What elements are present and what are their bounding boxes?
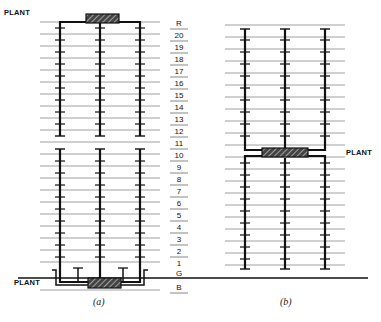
floor-label: 9 xyxy=(169,163,189,172)
floor-label: 17 xyxy=(169,67,189,76)
floor-label: B xyxy=(169,283,189,292)
floor-label: 14 xyxy=(169,103,189,112)
plant-a-top xyxy=(86,14,119,23)
floor-label: 10 xyxy=(169,151,189,160)
floor-label: 1 xyxy=(169,259,189,268)
floor-label: 5 xyxy=(169,211,189,220)
riser-diagram xyxy=(0,0,381,322)
floor-label: R xyxy=(169,19,189,28)
floor-label: 7 xyxy=(169,187,189,196)
floor-label: G xyxy=(169,269,189,278)
plant-b-middle xyxy=(262,148,308,157)
riser-system-a-lower xyxy=(52,149,148,285)
floor-label: 13 xyxy=(169,115,189,124)
floor-label: 20 xyxy=(169,31,189,40)
floor-label: 11 xyxy=(169,139,189,148)
caption-b: (b) xyxy=(280,296,292,307)
floor-label: 3 xyxy=(169,235,189,244)
floor-label: 6 xyxy=(169,199,189,208)
caption-a: (a) xyxy=(93,296,105,307)
floor-label: 19 xyxy=(169,43,189,52)
plant-label-b: PLANT xyxy=(346,148,372,157)
floor-label: 12 xyxy=(169,127,189,136)
floor-label: 4 xyxy=(169,223,189,232)
floor-label: 8 xyxy=(169,175,189,184)
plant-a-bottom xyxy=(88,278,121,288)
riser-system-a-upper xyxy=(55,22,145,136)
floor-label: 15 xyxy=(169,91,189,100)
floor-label: 2 xyxy=(169,247,189,256)
plant-label-a-top: PLANT xyxy=(4,8,30,17)
floor-label: 18 xyxy=(169,55,189,64)
floor-label: 16 xyxy=(169,79,189,88)
plant-label-a-bottom: PLANT xyxy=(14,278,40,287)
